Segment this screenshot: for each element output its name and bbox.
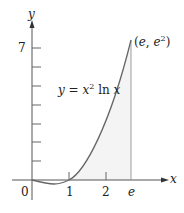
y-ticks [32, 48, 41, 161]
y-axis-label: y [27, 7, 35, 21]
x-tick-label-1: 1 [66, 185, 74, 199]
x-tick-label-0: 0 [21, 185, 29, 199]
x-axis-label: x [170, 172, 177, 186]
y-tick-label-7: 7 [18, 41, 26, 55]
area-under-curve [69, 40, 131, 180]
x-tick-label-2: 2 [102, 185, 110, 199]
y-axis-arrow-icon [30, 20, 35, 28]
function-label: y = x2 ln x [57, 82, 121, 97]
x-axis-arrow-icon [161, 178, 169, 183]
point-label: (e, e2) [134, 34, 170, 49]
x-tick-label-e: e [128, 185, 135, 199]
graph: y x 7 0 1 2 e y = x2 ln x (e, e2) [0, 0, 184, 213]
